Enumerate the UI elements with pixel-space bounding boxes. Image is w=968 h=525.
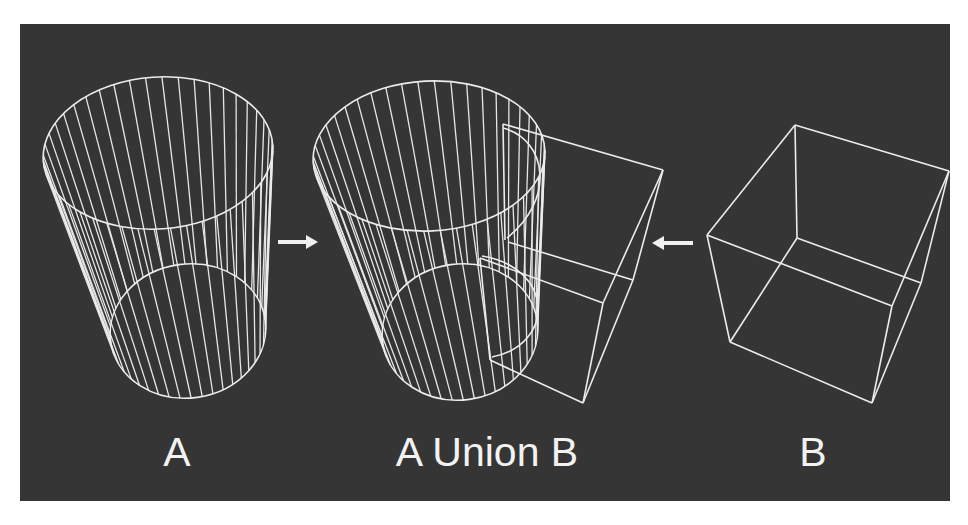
cylinder-a-wireframe	[38, 69, 278, 408]
edge	[730, 342, 872, 403]
hatch-line	[43, 155, 110, 337]
hatch-line	[472, 224, 495, 391]
hatch-line	[93, 218, 149, 390]
edge	[730, 238, 797, 342]
edge	[707, 235, 730, 342]
label-b: B	[799, 432, 826, 473]
label-a: A	[163, 432, 190, 473]
hatch-line	[171, 228, 203, 396]
arrow-right-icon	[278, 235, 318, 249]
edge	[707, 235, 892, 306]
hatch-line	[47, 176, 115, 355]
hatch-line	[467, 84, 479, 265]
edge	[603, 170, 663, 303]
hatch-line	[482, 88, 489, 268]
label-a-union-b: A Union B	[396, 432, 578, 473]
edge	[707, 125, 795, 235]
edge	[795, 125, 797, 238]
edge	[872, 306, 892, 403]
hatch-line	[209, 83, 217, 268]
hatch-line	[230, 209, 241, 378]
hatch-line	[316, 177, 386, 356]
edge	[503, 124, 505, 240]
hatch-line	[194, 79, 207, 265]
right-silhouette	[537, 150, 545, 321]
hatch-line	[107, 223, 159, 394]
hatch-line	[245, 102, 248, 283]
cube-b-wireframe	[707, 125, 949, 403]
edge	[583, 303, 603, 403]
hatch-line	[146, 78, 174, 266]
hatch-line	[496, 93, 499, 272]
hatch-line	[187, 226, 213, 394]
hatch-line	[260, 183, 261, 354]
hatch-line	[223, 88, 227, 272]
edge	[480, 258, 490, 360]
hatch-line	[391, 228, 441, 399]
hatch-line	[86, 97, 135, 284]
union-box-wireframe	[480, 124, 663, 403]
hatch-line	[319, 135, 384, 318]
edge	[503, 124, 663, 170]
hatch-line	[487, 219, 505, 386]
arrow-left-icon	[652, 236, 693, 250]
hatch-line	[335, 115, 393, 299]
edge	[795, 125, 949, 171]
hatch-line	[457, 228, 486, 396]
union-cylinder-wireframe	[309, 75, 549, 410]
hatch-line	[80, 212, 140, 385]
